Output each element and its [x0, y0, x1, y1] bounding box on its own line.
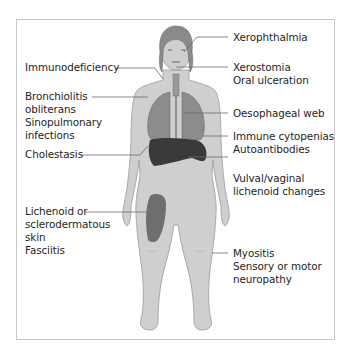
label-cholestasis: Cholestasis	[25, 148, 83, 161]
label-bronchiolitis: Bronchiolitis obliterans Sinopulmonary i…	[25, 90, 102, 142]
label-vulval: Vulval/vaginal lichenoid changes	[233, 172, 325, 198]
label-immunodeficiency: Immunodeficiency	[25, 61, 119, 74]
label-myositis: Myositis Sensory or motor neuropathy	[233, 247, 322, 286]
label-skin: Lichenoid or sclerodermatous skin Fascii…	[25, 205, 110, 257]
label-oesophageal: Oesophageal web	[233, 107, 324, 120]
label-immune: Immune cytopenias Autoantibodies	[233, 130, 334, 156]
label-xerophthalmia: Xerophthalmia	[233, 31, 308, 44]
label-xerostomia: Xerostomia Oral ulceration	[233, 61, 309, 87]
